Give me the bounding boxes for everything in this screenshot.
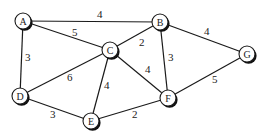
edge-b-f [160, 22, 168, 98]
edge-f-g [168, 54, 247, 98]
node-c: C [102, 42, 120, 60]
node-label: C [107, 45, 114, 56]
graph-svg: 453234644325 ABCDEFG [0, 0, 269, 139]
node-d: D [12, 88, 30, 106]
edge-weight-f-g: 5 [212, 73, 218, 85]
edge-a-d [20, 21, 23, 96]
edge-c-f [110, 50, 168, 98]
node-label: D [16, 91, 23, 102]
node-f: F [160, 90, 178, 108]
node-b: B [152, 14, 170, 32]
node-label: F [165, 93, 171, 104]
edge-weight-c-d: 6 [67, 71, 73, 83]
node-label: E [88, 116, 94, 127]
node-label: G [243, 49, 250, 60]
edge-e-f [91, 98, 168, 121]
edge-d-e [20, 96, 91, 121]
edge-weight-b-g: 4 [204, 25, 210, 37]
edge-b-c [110, 22, 160, 50]
edge-weights-layer: 453234644325 [25, 8, 218, 120]
edge-a-b [23, 21, 160, 22]
edge-c-d [20, 50, 110, 96]
weighted-graph-diagram: 453234644325 ABCDEFG [0, 0, 269, 139]
edges-layer [20, 21, 247, 121]
edge-a-c [23, 21, 110, 50]
edge-weight-e-f: 2 [132, 108, 138, 120]
edge-weight-c-f: 4 [145, 63, 151, 75]
node-label: B [157, 17, 164, 28]
edge-weight-c-e: 4 [104, 79, 110, 91]
node-label: A [19, 16, 27, 27]
edge-weight-b-c: 2 [139, 36, 145, 48]
edge-weight-a-c: 5 [72, 26, 78, 38]
node-a: A [15, 13, 33, 31]
edge-weight-b-f: 3 [168, 51, 174, 63]
edge-weight-a-d: 3 [25, 51, 31, 63]
node-e: E [83, 113, 101, 131]
node-g: G [239, 46, 257, 64]
edge-weight-a-b: 4 [97, 8, 103, 20]
edge-weight-d-e: 3 [50, 108, 56, 120]
